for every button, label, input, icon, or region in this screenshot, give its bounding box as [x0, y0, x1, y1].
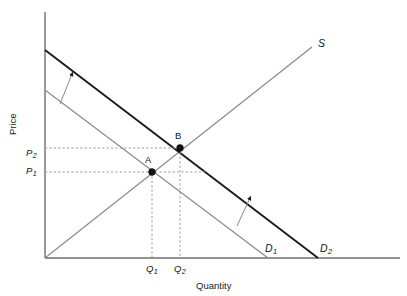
price-tick-P2-base: P [26, 147, 32, 158]
equilibrium-point-B-label: B [175, 131, 181, 141]
demand-curve-D2-label-base: D [320, 242, 328, 254]
demand-curve-D2 [45, 50, 318, 258]
price-tick-P1: P1 [26, 166, 36, 176]
price-tick-P1-base: P [26, 165, 32, 176]
demand-curve-D1-label-subscript: 1 [273, 247, 277, 256]
demand-curve-D1-label-base: D [265, 242, 273, 254]
demand-curve-D2-label: D2 [320, 243, 332, 254]
price-tick-P2: P2 [26, 148, 36, 158]
quantity-tick-Q1-base: Q [146, 263, 153, 274]
price-tick-P1-subscript: 1 [33, 169, 37, 178]
quantity-tick-Q2: Q2 [174, 264, 185, 274]
y-axis-title: Price [8, 113, 18, 135]
equilibrium-point-A-label: A [145, 155, 151, 165]
shift-arrow-upper-icon [60, 74, 72, 104]
diagram-canvas [0, 0, 407, 296]
supply-demand-figure: Price Quantity S D1 D2 A B P2 P1 Q1 Q2 [0, 0, 407, 296]
quantity-tick-Q1-subscript: 1 [154, 267, 158, 276]
equilibrium-point-B [177, 145, 184, 152]
demand-curve-D1 [45, 90, 268, 258]
price-tick-P2-subscript: 2 [33, 151, 37, 160]
quantity-tick-Q1: Q1 [146, 264, 157, 274]
demand-curve-D2-label-subscript: 2 [328, 247, 332, 256]
x-axis-title: Quantity [196, 281, 231, 291]
quantity-tick-Q2-subscript: 2 [182, 267, 186, 276]
equilibrium-point-A [149, 169, 156, 176]
supply-curve-label: S [318, 38, 325, 49]
quantity-tick-Q2-base: Q [174, 263, 181, 274]
demand-curve-D1-label: D1 [265, 243, 277, 254]
